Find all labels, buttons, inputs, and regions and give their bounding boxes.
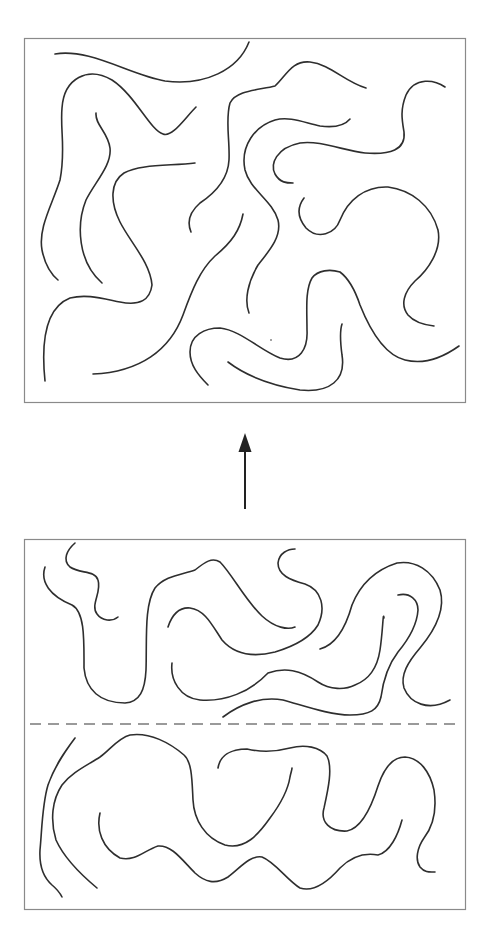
chain (189, 62, 366, 232)
polymer-diagram (0, 0, 495, 943)
chain (228, 324, 343, 390)
bottom-panel (25, 540, 466, 910)
chain (44, 163, 195, 381)
chain (168, 549, 322, 654)
chain (320, 562, 450, 705)
chain (99, 813, 402, 889)
transition-arrow (239, 433, 252, 509)
chain (53, 735, 292, 888)
chain (80, 113, 110, 283)
top-panel (25, 39, 466, 403)
chain (44, 560, 295, 703)
speck (270, 339, 272, 341)
chain (190, 270, 459, 385)
chain (218, 746, 435, 872)
chain (223, 594, 418, 717)
chain (172, 616, 384, 700)
chain (66, 543, 118, 620)
chain (93, 214, 243, 374)
chain (299, 187, 439, 326)
chain (40, 738, 75, 897)
chain (273, 81, 445, 183)
arrow-up-icon (239, 433, 252, 452)
chain (244, 119, 350, 313)
